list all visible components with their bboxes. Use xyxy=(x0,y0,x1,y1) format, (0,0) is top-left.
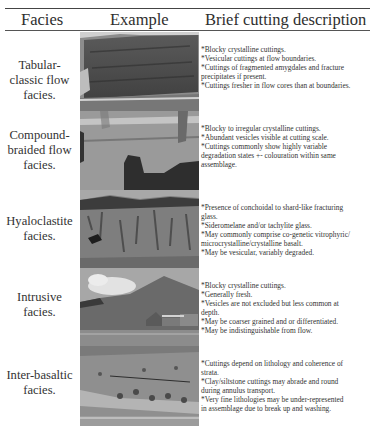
facies-label: Hyaloclastite facies. xyxy=(0,214,79,244)
outcrop-hyaloclastite-photo xyxy=(80,190,199,268)
cliff-tabular-lava-flows-photo xyxy=(80,32,199,111)
hill-intrusion-with-farm-buildings-photo xyxy=(80,268,199,346)
cutting-description: *Blocky crystalline cuttings. *Generally… xyxy=(201,282,373,335)
cutting-description: *Blocky crystalline cuttings. *Vesicular… xyxy=(201,46,373,91)
header-bottom-rule xyxy=(5,30,370,31)
facies-label: Tabular- classic flow facies. xyxy=(0,58,79,103)
facies-label: Intrusive facies. xyxy=(0,290,79,320)
column-header-description: Brief cutting description xyxy=(205,10,366,30)
outcrop-compound-braided-flows-photo xyxy=(80,111,199,190)
table-row-intrusive: Intrusive facies. *Blocky crystalline cu… xyxy=(0,268,377,346)
table-row-compound-braided: Compound- braided flow facies. *Blocky t… xyxy=(0,111,377,190)
cutting-description: *Cuttings depend on lithology and cohere… xyxy=(201,360,373,413)
cutting-description: *Presence of conchoidal to shard-like fr… xyxy=(201,204,373,257)
table-top-rule xyxy=(5,8,370,9)
facies-label: Inter-basaltic facies. xyxy=(0,368,79,398)
table-row-tabular-classic: Tabular- classic flow facies. *Blocky cr… xyxy=(0,32,377,111)
column-header-example: Example xyxy=(110,10,169,30)
slope-inter-basaltic-strata-photo xyxy=(80,346,199,426)
facies-label: Compound- braided flow facies. xyxy=(0,128,79,173)
table-row-hyaloclastite: Hyaloclastite facies. *Presence of conch… xyxy=(0,190,377,268)
cutting-description: *Blocky to irregular crystalline cutting… xyxy=(201,125,373,170)
column-header-facies: Facies xyxy=(21,10,63,30)
table-row-inter-basaltic: Inter-basaltic facies. *Cuttings depend … xyxy=(0,346,377,426)
